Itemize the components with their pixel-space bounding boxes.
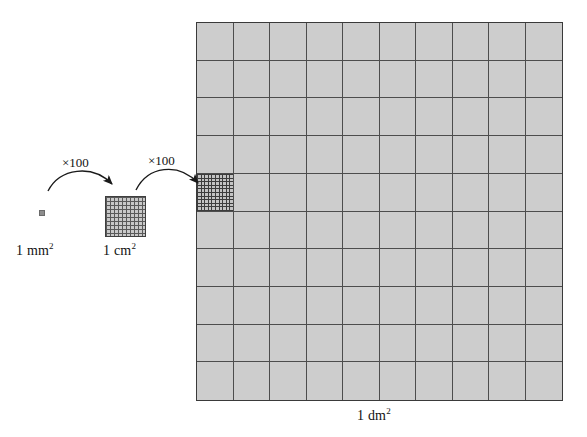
dm2-grid-cell bbox=[343, 174, 380, 212]
dm2-grid-cell bbox=[416, 98, 453, 136]
label-dm2-exponent: 2 bbox=[386, 406, 391, 416]
dm2-grid-cell bbox=[343, 98, 380, 136]
dm2-grid-cell bbox=[343, 23, 380, 61]
figure-canvas: 1 mm2 1 cm2 1 dm2 ×100 ×100 bbox=[0, 0, 587, 437]
dm2-grid-cell bbox=[307, 61, 344, 99]
label-dm2: 1 dm2 bbox=[357, 408, 391, 424]
dm2-grid-cell bbox=[343, 362, 380, 400]
dm2-grid-cell bbox=[307, 249, 344, 287]
dm2-grid-cell bbox=[307, 136, 344, 174]
dm2-grid-cell bbox=[343, 61, 380, 99]
label-cm2-exponent: 2 bbox=[131, 241, 136, 251]
dm2-grid-cell bbox=[526, 61, 563, 99]
dm2-grid-cell bbox=[526, 362, 563, 400]
dm2-grid-cell bbox=[416, 61, 453, 99]
dm2-grid-cell bbox=[380, 212, 417, 250]
dm2-grid-cell-highlighted bbox=[197, 174, 234, 212]
dm2-grid-cell bbox=[270, 325, 307, 363]
dm2-grid-cell bbox=[343, 136, 380, 174]
dm2-grid-cell bbox=[234, 61, 271, 99]
dm2-grid-cell bbox=[380, 362, 417, 400]
dm2-grid-cell bbox=[197, 249, 234, 287]
label-cm2: 1 cm2 bbox=[103, 243, 136, 259]
dm2-grid-cell bbox=[270, 98, 307, 136]
dm2-grid-cell bbox=[307, 98, 344, 136]
dm2-grid-cell bbox=[234, 174, 271, 212]
dm2-grid-cell bbox=[489, 23, 526, 61]
dm2-grid-cell bbox=[234, 249, 271, 287]
dm2-grid-cell bbox=[307, 174, 344, 212]
dm2-grid-cell bbox=[380, 136, 417, 174]
dm2-grid-cell bbox=[234, 23, 271, 61]
dm2-grid-cell bbox=[270, 61, 307, 99]
dm2-grid-cell bbox=[489, 287, 526, 325]
dm2-grid-cell bbox=[453, 174, 490, 212]
dm2-grid-cell bbox=[453, 136, 490, 174]
dm2-grid-cell bbox=[380, 23, 417, 61]
dm2-grid-cell bbox=[197, 23, 234, 61]
dm2-grid-cell bbox=[526, 325, 563, 363]
dm2-grid-cell bbox=[453, 23, 490, 61]
dm2-grid-cell bbox=[197, 212, 234, 250]
dm2-grid-cell bbox=[234, 287, 271, 325]
multiplier-label-mm-to-cm: ×100 bbox=[62, 155, 89, 171]
dm2-grid-cell bbox=[416, 249, 453, 287]
square-dm2 bbox=[196, 22, 563, 401]
dm2-grid-cell bbox=[453, 362, 490, 400]
dm2-grid-cell bbox=[234, 98, 271, 136]
dm2-grid-cell bbox=[234, 325, 271, 363]
dm2-grid-cell bbox=[343, 212, 380, 250]
dm2-grid-cell bbox=[526, 287, 563, 325]
dm2-grid-cell bbox=[343, 249, 380, 287]
dm2-grid-cell bbox=[489, 325, 526, 363]
dm2-grid-cell bbox=[416, 136, 453, 174]
dm2-grid-cell bbox=[526, 249, 563, 287]
square-cm2 bbox=[105, 196, 146, 237]
dm2-grid-cell bbox=[307, 287, 344, 325]
label-dm2-text: 1 dm bbox=[357, 408, 386, 423]
dm2-grid-cell bbox=[234, 136, 271, 174]
dm2-grid-cell bbox=[453, 249, 490, 287]
dm2-grid-cell bbox=[489, 98, 526, 136]
label-cm2-text: 1 cm bbox=[103, 243, 131, 258]
dm2-grid-cell bbox=[416, 362, 453, 400]
dm2-grid-cell bbox=[197, 287, 234, 325]
dm2-grid-cell bbox=[270, 362, 307, 400]
dm2-grid-cell bbox=[307, 325, 344, 363]
dm2-grid-cell bbox=[270, 23, 307, 61]
dm2-grid-cell bbox=[453, 61, 490, 99]
arrow-mm-to-cm bbox=[48, 171, 112, 191]
label-mm2-text: 1 mm bbox=[16, 243, 49, 258]
dm2-grid-cell bbox=[416, 212, 453, 250]
arrow-cm-to-dm bbox=[136, 169, 198, 190]
dm2-grid-cell bbox=[270, 212, 307, 250]
dm2-grid-cell bbox=[197, 362, 234, 400]
dm2-grid-cell bbox=[453, 325, 490, 363]
dm2-grid-cell bbox=[197, 61, 234, 99]
dm2-grid-cell bbox=[416, 23, 453, 61]
dm2-grid-cell bbox=[307, 23, 344, 61]
dm2-grid-cell bbox=[489, 362, 526, 400]
dm2-grid-cell bbox=[380, 98, 417, 136]
dm2-grid-cell bbox=[416, 287, 453, 325]
dm2-grid-cell bbox=[416, 174, 453, 212]
dm2-grid-cell bbox=[307, 362, 344, 400]
dm2-grid-cell bbox=[343, 287, 380, 325]
dm2-grid-cell bbox=[343, 325, 380, 363]
label-mm2-exponent: 2 bbox=[49, 241, 54, 251]
dm2-grid-cell bbox=[489, 249, 526, 287]
dm2-grid bbox=[197, 23, 562, 400]
dm2-grid-cell bbox=[453, 212, 490, 250]
dm2-grid-cell bbox=[453, 98, 490, 136]
dm2-grid-cell bbox=[197, 325, 234, 363]
dm2-grid-cell bbox=[380, 61, 417, 99]
dm2-grid-cell bbox=[380, 325, 417, 363]
dm2-grid-cell bbox=[197, 98, 234, 136]
dm2-grid-cell bbox=[380, 249, 417, 287]
dm2-grid-cell bbox=[489, 212, 526, 250]
dm2-grid-cell bbox=[234, 212, 271, 250]
dm2-grid-cell bbox=[526, 174, 563, 212]
multiplier-label-cm-to-dm: ×100 bbox=[148, 153, 175, 169]
dm2-grid-cell bbox=[489, 174, 526, 212]
dm2-grid-cell bbox=[197, 136, 234, 174]
